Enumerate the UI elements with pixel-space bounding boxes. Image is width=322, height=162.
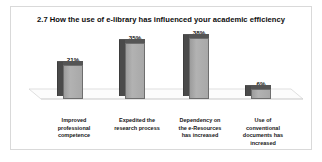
bar-1[interactable] [119, 43, 145, 99]
bar-front-face-0 [63, 65, 83, 99]
category-label-0: Improved professional competence [45, 117, 103, 140]
category-label-1-line-0: Expedited the [107, 117, 167, 125]
category-label-3: Use of conventional documents has increa… [232, 117, 294, 147]
category-label-0-line-1: professional [45, 125, 103, 133]
bar-front-face-1 [125, 43, 145, 99]
bar-3[interactable] [245, 89, 271, 99]
chart-container: 2.7 How the use of e-library has influen… [10, 6, 312, 150]
category-label-2-line-0: Dependency on [168, 117, 232, 125]
category-labels: Improved professional competence Expedit… [11, 117, 313, 151]
bar-0[interactable] [57, 65, 83, 99]
chart-title: 2.7 How the use of e-library has influen… [11, 15, 311, 24]
bars-layer: 21% 35% 38% 6% [11, 27, 313, 115]
category-label-2-line-2: has increased [168, 132, 232, 140]
category-label-3-line-2: documents has [232, 132, 294, 140]
category-label-3-line-1: conventional [232, 125, 294, 133]
category-label-1-line-1: research process [107, 125, 167, 133]
category-label-2-line-1: the e-Resources [168, 125, 232, 133]
bar-front-face-3 [251, 89, 271, 99]
category-label-0-line-2: competence [45, 132, 103, 140]
category-label-3-line-3: increased [232, 140, 294, 148]
category-label-1: Expedited the research process [107, 117, 167, 132]
bar-front-face-2 [189, 38, 209, 99]
category-label-0-line-0: Improved [45, 117, 103, 125]
bar-2[interactable] [183, 38, 209, 99]
category-label-3-line-0: Use of [232, 117, 294, 125]
category-label-2: Dependency on the e-Resources has increa… [168, 117, 232, 140]
